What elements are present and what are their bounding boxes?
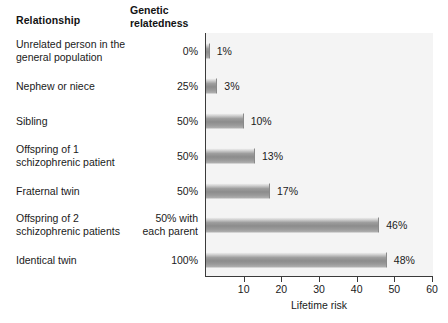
row-genetic-relatedness-line1: 50% bbox=[120, 114, 198, 127]
row-relationship-label: Sibling bbox=[16, 114, 134, 127]
chart-row: Identical twin100%48% bbox=[0, 243, 448, 278]
x-axis-tick-mark bbox=[432, 277, 433, 282]
bar-track bbox=[206, 148, 255, 163]
row-genetic-relatedness-value: 100% bbox=[120, 254, 198, 267]
bar bbox=[206, 148, 255, 163]
x-axis-tick-label: 50 bbox=[388, 283, 400, 295]
row-relationship-label: Identical twin bbox=[16, 254, 134, 267]
x-axis-tick-mark bbox=[319, 277, 320, 282]
row-genetic-relatedness-line1: 50% bbox=[120, 184, 198, 197]
x-axis-tick-label: 40 bbox=[351, 283, 363, 295]
column-header-genetic-relatedness: Genetic relatedness bbox=[130, 4, 198, 29]
page-artifact-text bbox=[26, 312, 29, 322]
row-relationship-label-line1: Nephew or niece bbox=[16, 80, 134, 93]
x-axis-tick-mark bbox=[244, 277, 245, 282]
bar bbox=[206, 44, 210, 59]
chart-row: Nephew or niece25%3% bbox=[0, 69, 448, 104]
row-relationship-label-line1: Offspring of 2 bbox=[16, 212, 134, 225]
bar bbox=[206, 79, 217, 94]
row-relationship-label-line1: Sibling bbox=[16, 114, 134, 127]
column-header-relatedness-line2: relatedness bbox=[130, 17, 198, 30]
row-relationship-label-line2: schizophrenic patient bbox=[16, 156, 134, 169]
chart-row: Offspring of 2schizophrenic patients50% … bbox=[0, 208, 448, 243]
row-genetic-relatedness-line1: 50% bbox=[120, 149, 198, 162]
chart-row: Fraternal twin50%17% bbox=[0, 173, 448, 208]
bar-track bbox=[206, 79, 217, 94]
x-axis-tick-label: 60 bbox=[426, 283, 438, 295]
bar-value-label: 46% bbox=[386, 219, 407, 231]
bar bbox=[206, 253, 387, 268]
x-axis-tick-mark bbox=[394, 277, 395, 282]
row-relationship-label-line1: Offspring of 1 bbox=[16, 143, 134, 156]
x-axis-tick-label: 20 bbox=[275, 283, 287, 295]
bar-track bbox=[206, 113, 244, 128]
row-relationship-label-line1: Identical twin bbox=[16, 254, 134, 267]
row-genetic-relatedness-line2: each parent bbox=[120, 225, 198, 238]
row-genetic-relatedness-value: 50% bbox=[120, 184, 198, 197]
x-axis-tick-label: 10 bbox=[238, 283, 250, 295]
bar-value-label: 17% bbox=[277, 185, 298, 197]
row-relationship-label-line1: Unrelated person in the bbox=[16, 38, 134, 51]
row-genetic-relatedness-value: 50% bbox=[120, 149, 198, 162]
bar bbox=[206, 113, 244, 128]
row-relationship-label-line2: schizophrenic patients bbox=[16, 225, 134, 238]
bar bbox=[206, 218, 379, 233]
row-genetic-relatedness-value: 50% bbox=[120, 114, 198, 127]
bar-value-label: 13% bbox=[262, 150, 283, 162]
row-relationship-label-line1: Fraternal twin bbox=[16, 184, 134, 197]
row-relationship-label: Unrelated person in thegeneral populatio… bbox=[16, 38, 134, 64]
row-genetic-relatedness-line1: 25% bbox=[120, 80, 198, 93]
column-header-relatedness-line1: Genetic bbox=[130, 4, 198, 17]
row-relationship-label: Nephew or niece bbox=[16, 80, 134, 93]
row-relationship-label-line2: general population bbox=[16, 51, 134, 64]
row-relationship-label: Offspring of 1schizophrenic patient bbox=[16, 143, 134, 169]
chart-row: Sibling50%10% bbox=[0, 104, 448, 139]
row-genetic-relatedness-value: 50% witheach parent bbox=[120, 212, 198, 238]
row-genetic-relatedness-line1: 50% with bbox=[120, 212, 198, 225]
x-axis-title: Lifetime risk bbox=[205, 299, 433, 311]
row-genetic-relatedness-value: 25% bbox=[120, 80, 198, 93]
x-axis-tick-mark bbox=[281, 277, 282, 282]
row-relationship-label: Fraternal twin bbox=[16, 184, 134, 197]
bar-track bbox=[206, 44, 210, 59]
column-header-relationship: Relationship bbox=[16, 14, 80, 26]
bar-value-label: 3% bbox=[224, 80, 239, 92]
row-relationship-label: Offspring of 2schizophrenic patients bbox=[16, 212, 134, 238]
bar-value-label: 10% bbox=[251, 115, 272, 127]
row-genetic-relatedness-line1: 0% bbox=[120, 45, 198, 58]
bar-track bbox=[206, 218, 379, 233]
bar-track bbox=[206, 183, 270, 198]
x-axis-tick-mark bbox=[357, 277, 358, 282]
genetic-relatedness-bar-chart: Relationship Genetic relatedness Unrelat… bbox=[0, 0, 448, 323]
row-genetic-relatedness-line1: 100% bbox=[120, 254, 198, 267]
bar bbox=[206, 183, 270, 198]
bar-value-label: 48% bbox=[394, 254, 415, 266]
bar-track bbox=[206, 253, 387, 268]
chart-row: Unrelated person in thegeneral populatio… bbox=[0, 34, 448, 69]
bar-value-label: 1% bbox=[217, 45, 232, 57]
x-axis-tick-label: 30 bbox=[313, 283, 325, 295]
row-genetic-relatedness-value: 0% bbox=[120, 45, 198, 58]
chart-row: Offspring of 1schizophrenic patient50%13… bbox=[0, 138, 448, 173]
